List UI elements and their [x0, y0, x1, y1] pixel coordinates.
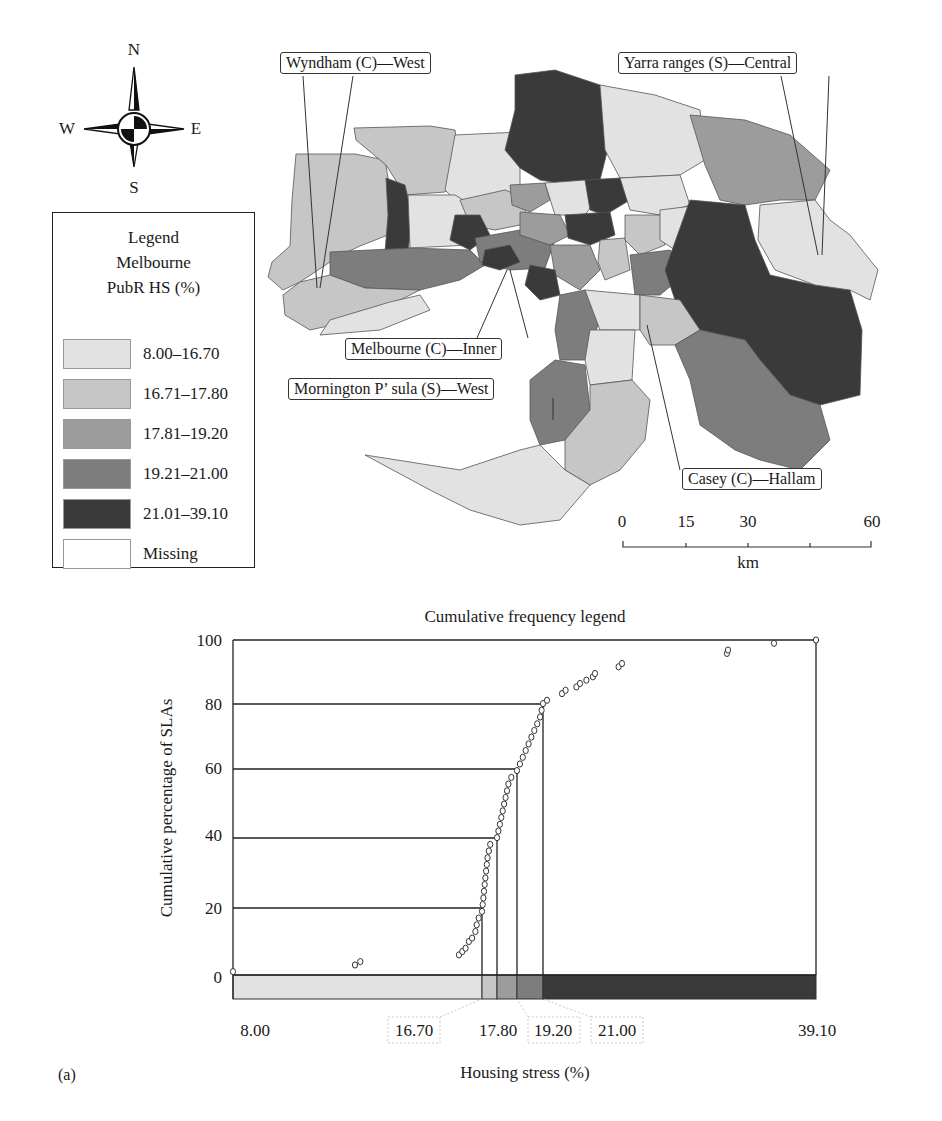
scale-tick-30: 30 — [740, 512, 757, 531]
callout-casey: Casey (C)—Hallam — [682, 468, 822, 490]
data-point — [230, 969, 235, 975]
data-point — [481, 895, 486, 901]
data-point — [499, 814, 504, 820]
cumulative-frequency-chart: Cumulative frequency legend Cumulative p… — [0, 590, 942, 1121]
data-point — [503, 794, 508, 800]
data-point — [535, 721, 540, 727]
callout-mornington: Mornington P’ sula (S)—West — [288, 378, 494, 400]
scale-tick-60: 60 — [864, 512, 881, 531]
data-point — [497, 821, 502, 827]
data-point — [474, 922, 479, 928]
callout-wyndham: Wyndham (C)—West — [280, 52, 431, 74]
data-point — [592, 670, 597, 676]
data-point — [496, 828, 501, 834]
data-point — [352, 962, 357, 968]
data-point — [725, 647, 730, 653]
map-region-inner-11 — [598, 238, 630, 280]
y-tick-80: 80 — [205, 695, 222, 714]
data-point — [619, 660, 624, 666]
callout-yarra-ranges: Yarra ranges (S)—Central — [618, 52, 797, 74]
x-tick-16-70: 16.70 — [395, 1021, 433, 1040]
map-region-inner-12 — [625, 215, 665, 255]
data-point — [463, 945, 468, 951]
data-point — [479, 908, 484, 914]
data-point — [500, 808, 505, 814]
y-tick-20: 20 — [205, 899, 222, 918]
data-point — [480, 902, 485, 908]
x-axis-label: Housing stress (%) — [460, 1063, 589, 1082]
data-point — [358, 959, 363, 965]
callout-melbourne-inner: Melbourne (C)—Inner — [345, 338, 502, 360]
scale-tick-0: 0 — [618, 512, 627, 531]
data-point — [538, 714, 543, 720]
map-region-north-light — [600, 85, 705, 178]
y-tick-100: 100 — [197, 631, 223, 650]
data-point — [504, 788, 509, 794]
map-region-yarra-north — [690, 115, 830, 205]
data-point — [476, 915, 481, 921]
data-point — [529, 734, 534, 740]
data-point — [470, 935, 475, 941]
data-point — [813, 637, 818, 643]
data-point — [494, 835, 499, 841]
data-point — [484, 861, 489, 867]
data-point — [485, 855, 490, 861]
data-point — [517, 761, 522, 767]
data-point — [484, 868, 489, 874]
data-point — [483, 875, 488, 881]
y-axis-label: Cumulative percentage of SLAs — [157, 699, 176, 918]
data-point — [488, 841, 493, 847]
data-point — [486, 848, 491, 854]
data-point — [509, 774, 514, 780]
x-tick-17-80: 17.80 — [479, 1021, 517, 1040]
scale-tick-15: 15 — [678, 512, 695, 531]
data-point — [532, 727, 537, 733]
data-point — [523, 747, 528, 753]
chart-title: Cumulative frequency legend — [424, 607, 626, 626]
y-tick-40: 40 — [205, 826, 222, 845]
data-point — [539, 707, 544, 713]
x-tick-21-00: 21.00 — [598, 1021, 636, 1040]
data-point — [526, 741, 531, 747]
data-point — [502, 801, 507, 807]
data-point — [584, 677, 589, 683]
data-point — [577, 680, 582, 686]
data-point — [481, 888, 486, 894]
scale-unit: km — [737, 553, 759, 572]
x-tick-19-20: 19.20 — [534, 1021, 572, 1040]
y-tick-60: 60 — [205, 759, 222, 778]
data-point — [544, 697, 549, 703]
map-scale-bar: 0 15 30 60 km — [600, 505, 900, 580]
data-point — [482, 881, 487, 887]
data-point — [473, 928, 478, 934]
data-point — [520, 754, 525, 760]
x-tick-8-00: 8.00 — [240, 1021, 270, 1040]
x-tick-39-10: 39.10 — [798, 1021, 836, 1040]
class-color-band — [233, 975, 816, 999]
data-point — [514, 768, 519, 774]
map-region-inner-10 — [525, 265, 560, 300]
map-region-southeast-bay-3 — [585, 330, 635, 385]
map-region-north-dark — [505, 70, 610, 185]
panel-label: (a) — [58, 1066, 76, 1084]
map-region-mornington-west — [365, 445, 590, 525]
data-point — [563, 687, 568, 693]
data-point — [771, 640, 776, 646]
data-points — [230, 637, 818, 975]
data-point — [506, 781, 511, 787]
y-tick-0: 0 — [214, 968, 223, 987]
